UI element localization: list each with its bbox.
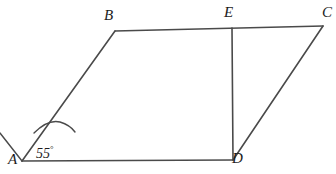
angle-label-A: 55°: [36, 145, 54, 161]
degree-symbol: °: [50, 144, 54, 154]
angle-arc-A: [34, 121, 75, 133]
vertex-label-C: C: [322, 5, 332, 20]
vertex-label-A: A: [8, 152, 17, 167]
geometry-figure: A B C D E 55°: [0, 0, 336, 174]
segment-ED: [232, 28, 233, 160]
segment-BC: [115, 26, 323, 31]
segment-AB: [22, 31, 115, 161]
vertex-label-D: D: [232, 151, 243, 166]
segment-CD: [233, 26, 323, 160]
vertex-label-B: B: [104, 8, 113, 23]
segment-DA: [22, 160, 233, 161]
angle-value-A: 55: [36, 146, 50, 161]
vertex-label-E: E: [224, 5, 233, 20]
